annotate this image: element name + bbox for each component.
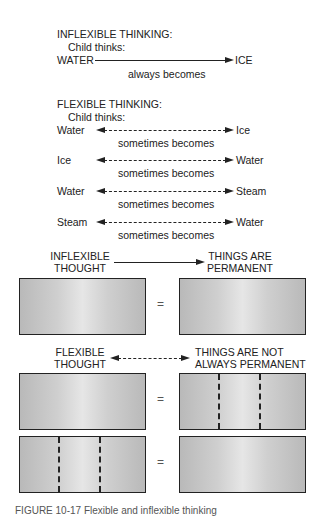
inflexible-to: ICE [235,54,253,66]
inflexible-arrow-label: always becomes [128,68,206,80]
arrowhead-right-icon [225,127,234,133]
flexible-row-to: Water [236,216,264,228]
not-permanent-label-line2: ALWAYS PERMANENT [195,358,306,370]
dashed-divider [58,437,60,492]
figure-caption: FIGURE 10-17 Flexible and inflexible thi… [15,505,217,517]
flexible-row-from: Steam [57,216,87,228]
flexible-row-to: Steam [236,185,266,197]
inflexible-from: WATER [57,54,94,66]
inflexible-thought-label-line1: INFLEXIBLE [40,250,120,262]
ice-block-right [179,278,306,335]
inflexible-heading: INFLEXIBLE THINKING: [57,28,172,40]
flexible-row-from: Water [57,124,85,136]
dashed-arrow-line [104,130,226,131]
solid-arrow-line [114,262,198,263]
flexible-heading: FLEXIBLE THINKING: [57,98,162,110]
whole-block [179,436,306,493]
flexible-row-to: Ice [236,124,250,136]
ice-block-left [19,278,146,335]
flexible-row-to: Water [236,154,264,166]
solid-arrow-line [95,60,227,61]
divided-block [19,436,146,493]
arrowhead-right-icon [181,355,190,361]
permanent-label-line2: PERMANENT [200,262,280,274]
not-permanent-label-line1: THINGS ARE NOT [195,346,284,358]
divided-block [179,373,306,430]
equals-sign: = [157,297,164,311]
dashed-arrow-line [104,222,226,223]
arrowhead-right-icon [225,157,234,163]
flexible-row-label: sometimes becomes [118,167,214,179]
dashed-arrow-line [104,191,226,192]
inflexible-subheading: Child thinks: [68,41,125,53]
dashed-arrow-line [118,358,182,359]
dashed-divider [259,374,261,429]
arrowhead-right-icon [225,57,234,63]
equals-sign: = [157,455,164,469]
flexible-row-label: sometimes becomes [118,198,214,210]
permanent-label-line1: THINGS ARE [200,250,280,262]
flexible-subheading: Child thinks: [68,111,125,123]
arrowhead-right-icon [225,219,234,225]
equals-sign: = [157,392,164,406]
flexible-row-label: sometimes becomes [118,229,214,241]
flexible-thought-label-line1: FLEXIBLE [40,346,120,358]
flexible-row-from: Ice [57,154,71,166]
arrowhead-right-icon [225,188,234,194]
whole-block [19,373,146,430]
inflexible-thought-label-line2: THOUGHT [40,262,120,274]
dashed-divider [99,437,101,492]
flexible-thought-label-line2: THOUGHT [40,358,120,370]
dashed-arrow-line [104,160,226,161]
flexible-row-label: sometimes becomes [118,137,214,149]
dashed-divider [218,374,220,429]
flexible-row-from: Water [57,185,85,197]
